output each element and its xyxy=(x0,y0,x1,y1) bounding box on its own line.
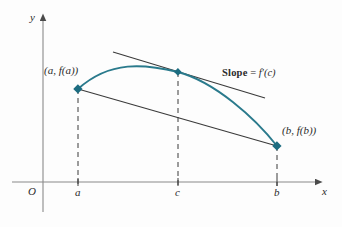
diagram-canvas xyxy=(0,0,342,227)
slope-expression: f′(c) xyxy=(259,67,276,78)
slope-annotation: Slope = f′(c) xyxy=(222,68,276,79)
tick-label-c: c xyxy=(175,187,180,198)
tick-label-a: a xyxy=(75,187,81,198)
tick-label-b: b xyxy=(274,187,280,198)
figure-container: y x O a c b (a, f(a)) (b, f(b)) Slope = … xyxy=(0,0,342,227)
point-label-a: (a, f(a)) xyxy=(44,65,78,76)
slope-equals-sign: = xyxy=(248,67,259,78)
point-marker-c xyxy=(174,68,182,76)
slope-word: Slope xyxy=(222,67,248,78)
origin-label: O xyxy=(28,186,36,197)
point-label-b: (b, f(b)) xyxy=(282,125,316,136)
x-axis-label: x xyxy=(322,186,327,197)
y-axis-label: y xyxy=(30,12,35,23)
